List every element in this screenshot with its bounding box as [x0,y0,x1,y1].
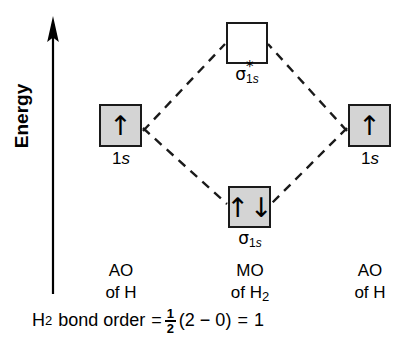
orbital-box-left-ao-1s: ↑ [99,104,142,147]
connector-left-ao-to-antibonding [143,44,225,131]
orbital-label-left-ao-1s: 1s [83,150,159,168]
orbital-box-right-ao-1s: ↑ [348,104,391,147]
bond-order-one-half-fraction: 1 2 [165,307,176,336]
bond-order-phrase: bond order [58,311,145,329]
column-caption-middle-subscript: 2 [262,289,269,304]
column-caption-middle-mo: MO of H2 [209,260,291,306]
energy-axis [36,12,70,294]
column-caption-middle-line2: of H2 [209,282,291,306]
connector-right-ao-to-antibonding [268,44,347,131]
spin-up-arrow-icon: ↑ [226,194,249,221]
column-caption-left-line1: AO [81,260,161,282]
fraction-denominator: 2 [167,322,174,335]
column-caption-right-ao: AO of H [330,260,410,304]
spin-up-arrow-icon: ↑ [358,112,381,139]
orbital-label-antibonding-sigma-1s: σ*1s [207,66,287,86]
bond-order-species: H [32,311,45,329]
mo-diagram-figure: Energy σ*1s ↑ 1s ↑ 1s ↑ ↓ [0,0,415,340]
bond-order-equals-second: = [237,311,248,329]
spin-up-arrow-icon: ↑ [109,112,132,139]
spin-down-arrow-icon: ↓ [250,194,273,221]
sigma-symbol-antibonding: σ* [235,66,246,84]
antibonding-star-icon: * [246,60,254,76]
electron-spins-right-ao: ↑ [358,112,381,139]
fraction-numerator: 1 [167,307,174,320]
bond-order-species-subscript: 2 [45,314,52,327]
bond-order-bonding-count: 2 [185,311,195,329]
electron-spins-left-ao: ↑ [109,112,132,139]
orbital-label-right-ao-1s: 1s [332,150,408,168]
bond-order-equals-first: = [151,311,162,329]
bond-order-close-paren: ) [225,311,231,329]
bond-order-antibonding-count: 0 [215,311,225,329]
electron-spins-bonding: ↑ ↓ [226,194,272,221]
column-caption-right-line1: AO [330,260,410,282]
bonding-subscript-1: 1 [249,236,256,250]
bond-order-equation: H2 bond order = 1 2 ( 2 − 0 ) = 1 [32,306,264,335]
bonding-subscript-s: s [256,236,262,250]
orbital-box-bonding-sigma-1s: ↑ ↓ [228,186,271,228]
sigma-symbol-bonding: σ [238,228,249,248]
bond-order-result: 1 [254,311,264,329]
right-ao-label-s: s [370,149,379,168]
left-ao-label-s: s [121,149,130,168]
bond-order-minus-sign: − [200,311,211,329]
orbital-label-bonding-sigma-1s: σ1s [210,230,290,250]
column-caption-left-line2: of H [81,282,161,304]
energy-axis-label: Energy [11,56,33,176]
column-caption-middle-line1: MO [209,260,291,282]
column-caption-left-ao: AO of H [81,260,161,304]
energy-axis-arrow [36,12,70,294]
column-caption-right-line2: of H [330,282,410,304]
